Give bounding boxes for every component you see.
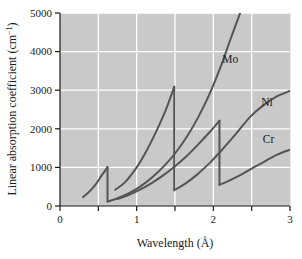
y-tick-label: 2000 xyxy=(30,123,53,135)
x-tick-label: 3 xyxy=(287,213,293,225)
series-label-ni: Ni xyxy=(261,96,273,108)
x-tick-label: 1 xyxy=(134,213,140,225)
y-tick-label: 0 xyxy=(47,200,53,212)
absorption-chart-figure: 0100020003000400050000123 MoNiCr Wavelen… xyxy=(0,0,302,259)
x-axis-title: Wavelength (Å) xyxy=(137,236,214,250)
y-tick-label: 3000 xyxy=(30,84,53,96)
x-tick-label: 0 xyxy=(57,213,63,225)
series-label-cr: Cr xyxy=(263,133,275,145)
series-label-mo: Mo xyxy=(222,53,238,65)
x-tick-label: 2 xyxy=(211,213,217,225)
chart-canvas: 0100020003000400050000123 MoNiCr Wavelen… xyxy=(0,0,302,259)
y-tick-label: 5000 xyxy=(30,7,53,19)
y-axis-title: Linear absorption coefficient (cm−1) xyxy=(5,22,19,195)
y-tick-label: 4000 xyxy=(30,45,53,57)
y-tick-label: 1000 xyxy=(30,161,53,173)
